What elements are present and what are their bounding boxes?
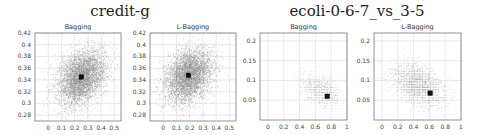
x-tick-label: 1: [345, 123, 349, 130]
y-tick-label: 0.4: [21, 41, 31, 48]
x-tick-label: 0.8: [440, 123, 450, 130]
y-tick-label: 0.4: [136, 41, 146, 48]
y-tick-label: 0.32: [133, 88, 147, 95]
y-tick-label: 0.36: [133, 64, 147, 71]
group-title-ecoli: ecoli-0-6-7_vs_3-5: [289, 2, 424, 20]
x-tick-label: 0: [266, 123, 270, 130]
x-tick-label: 0.4: [211, 124, 221, 131]
x-tick-label: 0.6: [425, 123, 435, 130]
y-tick-label: 0.38: [133, 52, 147, 59]
y-tick-label: 0.28: [18, 111, 32, 118]
x-tick-label: 0.3: [83, 124, 93, 131]
x-tick-label: 0.2: [70, 124, 80, 131]
x-tick-label: 0.8: [326, 123, 336, 130]
y-tick-label: 0.05: [357, 96, 371, 103]
y-tick-label: 0.36: [18, 64, 32, 71]
y-tick-label: 0.2: [360, 37, 370, 44]
y-tick-label: 0.42: [133, 29, 147, 36]
x-tick-label: 0.4: [409, 123, 419, 130]
panel-title: L-Bagging: [401, 23, 433, 31]
y-tick-label: 0.1: [246, 76, 256, 83]
x-tick-label: 1: [459, 123, 463, 130]
scatter-panel-ecoli-l-bagging: L-Bagging00.20.40.60.810.050.10.150.2: [374, 33, 461, 120]
y-tick-label: 0.3: [136, 99, 146, 106]
panel-title: Bagging: [290, 23, 317, 31]
y-tick-label: 0.3: [21, 99, 31, 106]
y-tick-label: 0.34: [133, 76, 147, 83]
center-marker: [186, 73, 190, 77]
y-tick-label: 0.2: [246, 37, 256, 44]
y-tick-label: 0.32: [18, 88, 32, 95]
x-tick-label: 0: [380, 123, 384, 130]
x-tick-label: 0.4: [295, 123, 305, 130]
point-cloud: [287, 65, 347, 118]
x-tick-label: 0.2: [393, 123, 403, 130]
x-tick-label: 0.1: [57, 124, 67, 131]
scatter-panel-credit-g-bagging: Bagging00.10.20.30.40.50.280.30.320.340.…: [35, 33, 121, 121]
y-tick-label: 0.1: [360, 76, 370, 83]
center-marker: [79, 75, 83, 79]
center-marker: [428, 91, 432, 95]
scatter-panel-ecoli-bagging: Bagging00.20.40.60.810.050.10.150.2: [260, 33, 347, 120]
x-tick-label: 0.5: [110, 124, 120, 131]
x-tick-label: 0: [46, 124, 50, 131]
group-title-credit-g: credit-g: [90, 2, 150, 20]
center-marker: [325, 94, 329, 98]
panel-title: Bagging: [65, 23, 92, 31]
x-tick-label: 0.1: [172, 124, 182, 131]
point-cloud: [374, 41, 460, 118]
x-tick-label: 0.6: [311, 123, 321, 130]
y-tick-label: 0.34: [18, 76, 32, 83]
y-tick-label: 0.42: [18, 29, 32, 36]
y-tick-label: 0.15: [243, 57, 257, 64]
x-tick-label: 0.2: [279, 123, 289, 130]
scatter-panel-credit-g-l-bagging: L-Bagging00.10.20.30.40.50.280.30.320.34…: [150, 33, 236, 121]
x-tick-label: 0: [161, 124, 165, 131]
y-tick-label: 0.38: [18, 52, 32, 59]
x-tick-label: 0.4: [96, 124, 106, 131]
x-tick-label: 0.3: [198, 124, 208, 131]
y-tick-label: 0.15: [357, 57, 371, 64]
x-tick-label: 0.5: [225, 124, 235, 131]
x-tick-label: 0.2: [185, 124, 195, 131]
y-tick-label: 0.05: [243, 96, 257, 103]
y-tick-label: 0.28: [133, 111, 147, 118]
panel-title: L-Bagging: [177, 23, 209, 31]
